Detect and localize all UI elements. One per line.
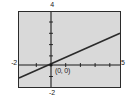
x-axis-max-label: 5: [121, 59, 130, 67]
plot-area-frame: [18, 11, 121, 88]
coordinate-plane-graph: 4 -2 -2 5 (0, 0): [0, 0, 130, 99]
origin-point-label: (0, 0): [55, 67, 70, 75]
y-axis-max-label: 4: [45, 1, 59, 9]
y-axis-min-label: -2: [45, 89, 59, 97]
x-axis-min-label: -2: [1, 59, 17, 67]
